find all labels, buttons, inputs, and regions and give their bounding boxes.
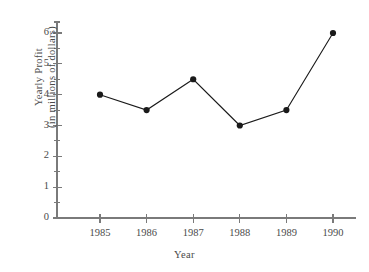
y-axis-tick-label: 6 [29,26,49,37]
x-axis-tick-label: 1985 [80,227,120,238]
data-point-marker [330,30,336,36]
y-axis-tick-label: 4 [29,88,49,99]
series-line [100,33,333,126]
data-series-line [100,33,333,126]
x-axis-tick-label: 1987 [173,227,213,238]
y-axis-tick-label: 2 [29,149,49,160]
tick-marks-group [53,22,334,223]
x-axis-tick-label: 1989 [266,227,306,238]
line-chart: Yearly Profit (in millions of dollars) Y… [0,0,369,272]
data-point-marker [190,76,196,82]
x-axis-title: Year [0,249,369,260]
y-axis-tick-label: 5 [29,57,49,68]
data-point-marker [283,107,289,113]
data-point-marker [97,92,103,98]
data-point-marker [237,122,243,128]
x-axis-tick-label: 1986 [127,227,167,238]
y-axis-tick-label: 0 [29,211,49,222]
y-axis-tick-label: 3 [29,119,49,130]
y-axis-tick-label: 1 [29,180,49,191]
y-axis-title-line-2: (in millions of dollars) [45,26,58,128]
data-point-markers [97,30,336,129]
x-axis-tick-label: 1988 [220,227,260,238]
axes-group [57,22,356,218]
x-axis-tick-label: 1990 [313,227,353,238]
data-point-marker [144,107,150,113]
